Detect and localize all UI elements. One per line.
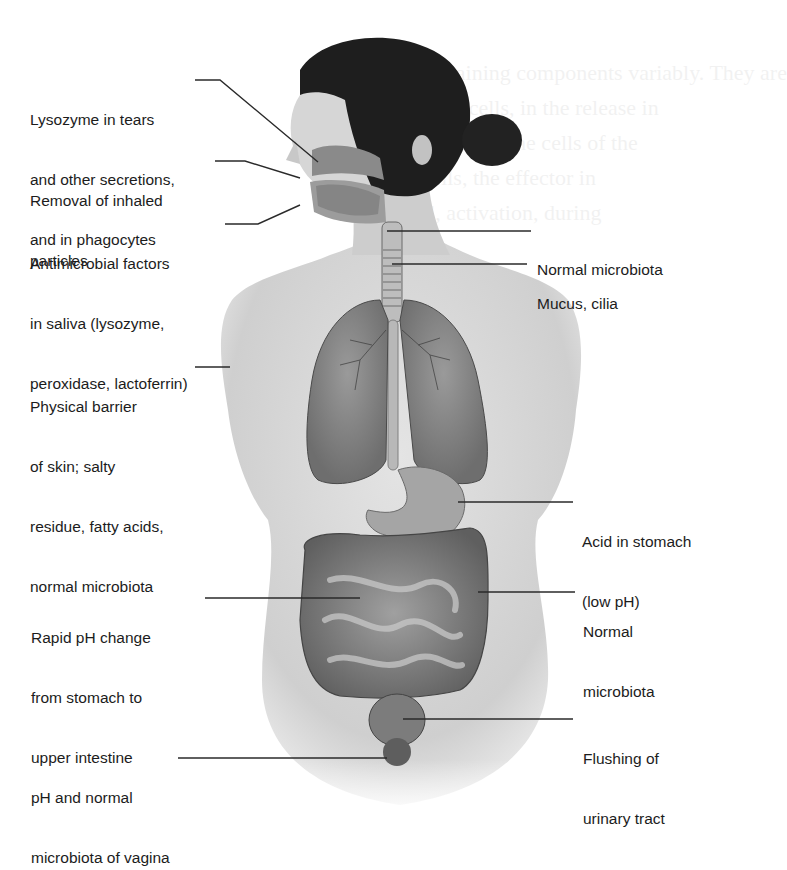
label-vagina: pH and normal microbiota of vagina <box>31 748 170 870</box>
label-skin-barrier: Physical barrier of skin; salty residue,… <box>30 357 164 617</box>
label-mucus-cilia: Mucus, cilia <box>537 254 618 334</box>
label-urinary-tract: Flushing of urinary tract <box>583 709 665 849</box>
head <box>286 38 522 224</box>
leader-inhaled <box>215 161 300 178</box>
leader-saliva <box>225 205 300 224</box>
label-microbiota-intestine: Normal microbiota <box>583 582 655 722</box>
intestines <box>300 528 488 698</box>
